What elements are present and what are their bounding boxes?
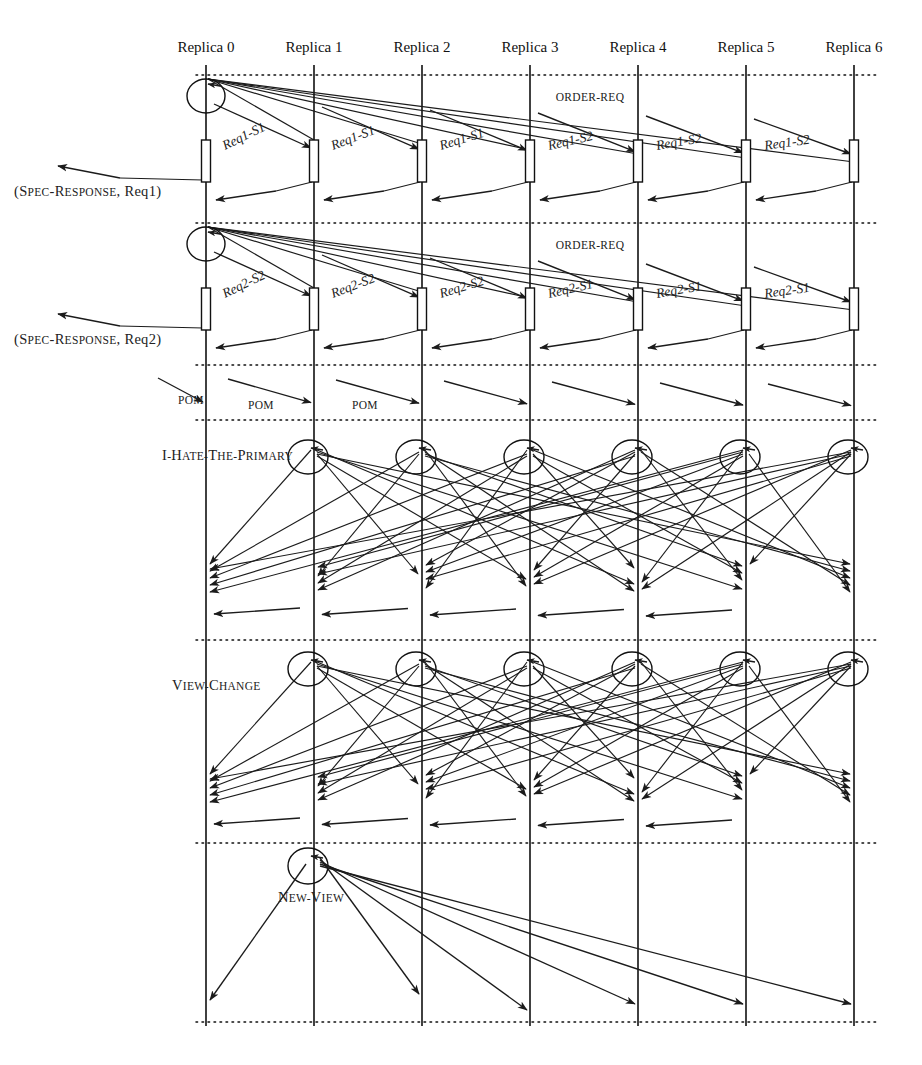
view-change-arrow-5-0 <box>210 662 743 802</box>
spec-response-arrow-1 <box>324 191 384 200</box>
message-label-req1-s2: Req1-S2 <box>654 130 703 153</box>
new-view-arrow-r6 <box>320 866 851 1004</box>
spec-response-arrow-1 <box>324 339 384 348</box>
pom-label-1: POM <box>248 399 274 411</box>
view-change-label: VIEW-CHANGE <box>172 677 261 693</box>
execution-box-r1 <box>310 140 319 182</box>
i-hate-the-primary-label: I-HATE-THE-PRIMARY <box>162 447 293 463</box>
diagram-canvas: Replica 0Replica 1Replica 2Replica 3Repl… <box>0 0 922 1065</box>
i-hate-the-primary-ack-3 <box>538 610 624 616</box>
spec-response-arrow-3 <box>540 339 600 348</box>
execution-box-r0 <box>202 140 211 182</box>
view-change-ack-3 <box>538 820 624 826</box>
spec-resp-stem-2 <box>492 330 528 339</box>
spec-response-arrow-5 <box>756 339 816 348</box>
spec-resp-stem-2 <box>492 182 528 191</box>
execution-box-r3 <box>526 288 535 330</box>
spec-response-arrow-0 <box>216 191 276 200</box>
message-label-req2-s1: Req2-S1 <box>654 278 703 301</box>
view-change-ack-2 <box>430 819 516 825</box>
i-hate-the-primary-arrow-5-6 <box>749 454 850 592</box>
i-hate-the-primary-arrow-1-0 <box>210 450 311 564</box>
spec-response-caption-1: (SPEC-RESPONSE, Req1) <box>14 183 161 200</box>
spec-response-arrow-4 <box>648 191 708 200</box>
message-label-req1-s2: Req1-S2 <box>762 132 811 153</box>
replica-header-r4: Replica 4 <box>609 39 667 55</box>
client-response-arrow <box>58 314 120 326</box>
spec-response-arrow-0 <box>216 339 276 348</box>
labels-group: Replica 0Replica 1Replica 2Replica 3Repl… <box>14 39 883 905</box>
new-view-label: NEW-VIEW <box>278 889 344 905</box>
i-hate-the-primary-ack-4 <box>646 610 732 616</box>
new-view-arrow-r5 <box>320 864 743 1004</box>
replica-header-r3: Replica 3 <box>501 39 558 55</box>
execution-box-r3 <box>526 140 535 182</box>
message-label-req2-s1: Req2-S1 <box>762 280 810 301</box>
spec-response-arrow-2 <box>432 339 492 348</box>
message-label-req1-s1: Req1-S1 <box>219 119 268 153</box>
execution-box-r5 <box>742 140 751 182</box>
new-view-arrow-r4 <box>320 862 635 1004</box>
view-change-self-head-4 <box>635 660 647 662</box>
pom-arrow-3 <box>444 381 527 404</box>
spec-resp-stem-3 <box>600 182 636 191</box>
spec-resp-stem-4 <box>708 182 744 191</box>
execution-box-r1 <box>310 288 319 330</box>
i-hate-the-primary-ack-0 <box>214 608 300 614</box>
execution-box-r4 <box>634 288 643 330</box>
spec-response-arrow-2 <box>432 191 492 200</box>
i-hate-the-primary-self-head-6 <box>851 448 863 450</box>
new-view-self-head <box>311 856 323 858</box>
view-change-ack-1 <box>322 819 408 825</box>
pom-label-0: POM <box>178 394 204 406</box>
spec-resp-stem-0 <box>276 330 312 339</box>
replica-header-r6: Replica 6 <box>825 39 883 55</box>
spec-resp-stem-0 <box>276 182 312 191</box>
spec-resp-stem-5 <box>816 330 852 339</box>
replica-header-r1: Replica 1 <box>285 39 342 55</box>
execution-box-r0 <box>202 288 211 330</box>
spec-resp-stem-5 <box>816 182 852 191</box>
execution-box-r4 <box>634 140 643 182</box>
spec-response-caption-2: (SPEC-RESPONSE, Req2) <box>14 331 161 348</box>
view-change-self-head-2 <box>419 660 431 662</box>
replica-header-r2: Replica 2 <box>393 39 450 55</box>
view-change-self-loop-3 <box>504 652 544 686</box>
spec-response-arrow-5 <box>756 191 816 200</box>
execution-box-r5 <box>742 288 751 330</box>
order-req-label-1: ORDER-REQ <box>556 91 625 103</box>
view-change-self-head-3 <box>527 660 539 662</box>
execution-box-r6 <box>850 140 859 182</box>
i-hate-the-primary-self-head-1 <box>311 448 323 450</box>
protocol-sequence-diagram: Replica 0Replica 1Replica 2Replica 3Repl… <box>0 0 922 1065</box>
message-label-req2-s2: Req2-S2 <box>219 267 268 301</box>
i-hate-the-primary-self-head-5 <box>743 448 755 450</box>
execution-box-r2 <box>418 140 427 182</box>
replica-header-r0: Replica 0 <box>177 39 234 55</box>
pom-arrow-5 <box>660 383 743 405</box>
client-response-arrow <box>58 166 120 178</box>
i-hate-the-primary-ack-1 <box>322 609 408 615</box>
i-hate-the-primary-self-loop-3 <box>504 440 544 474</box>
message-label-req2-s2: Req2-S2 <box>437 273 486 301</box>
view-change-arrow-5-6 <box>749 666 850 802</box>
i-hate-the-primary-ack-2 <box>430 609 516 615</box>
spec-response-arrow-4 <box>648 339 708 348</box>
spec-resp-stem-4 <box>708 330 744 339</box>
execution-box-r6 <box>850 288 859 330</box>
order-req-label-2: ORDER-REQ <box>556 239 625 251</box>
i-hate-the-primary-self-head-3 <box>527 448 539 450</box>
new-view-arrow-r0 <box>210 864 306 1000</box>
i-hate-the-primary-arrow-3-0 <box>210 454 527 578</box>
execution-box-r2 <box>418 288 427 330</box>
pom-arrow-6 <box>768 384 851 406</box>
view-change-self-head-1 <box>311 660 323 662</box>
view-change-self-head-6 <box>851 660 863 662</box>
spec-resp-stem-3 <box>600 330 636 339</box>
view-change-self-head-5 <box>743 660 755 662</box>
pom-label-2: POM <box>352 399 378 411</box>
view-change-arrow-1-0 <box>210 662 311 774</box>
view-change-ack-4 <box>646 820 732 826</box>
pom-arrow-4 <box>552 382 635 404</box>
spec-resp-stem-1 <box>384 330 420 339</box>
